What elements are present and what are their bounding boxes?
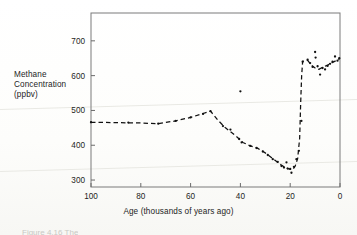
trend-curve	[91, 58, 340, 169]
svg-text:80: 80	[136, 192, 146, 201]
methane-concentration-figure: 100806040200 300400500600700 Methane Con…	[0, 0, 357, 235]
svg-text:400: 400	[71, 141, 85, 150]
x-axis-title: Age (thousands of years ago)	[0, 207, 357, 216]
data-points	[90, 51, 341, 174]
svg-text:100: 100	[84, 192, 98, 201]
svg-text:20: 20	[286, 192, 296, 201]
y-axis-label-line-2: Concentration	[14, 80, 82, 90]
y-axis-label: Methane Concentration (ppbv)	[14, 70, 82, 101]
svg-text:60: 60	[186, 192, 196, 201]
svg-text:0: 0	[338, 192, 343, 201]
chart-canvas: 100806040200 300400500600700	[0, 0, 357, 235]
svg-text:500: 500	[71, 106, 85, 115]
svg-text:40: 40	[236, 192, 246, 201]
plot-frame	[91, 13, 340, 187]
caption-fragment: Figure 4.16 The	[22, 228, 78, 235]
svg-text:300: 300	[71, 176, 85, 185]
y-axis-label-line-3: (ppbv)	[14, 90, 82, 100]
x-axis-ticks: 100806040200	[84, 183, 343, 201]
svg-text:700: 700	[71, 37, 85, 46]
y-axis-label-line-1: Methane	[14, 70, 82, 80]
